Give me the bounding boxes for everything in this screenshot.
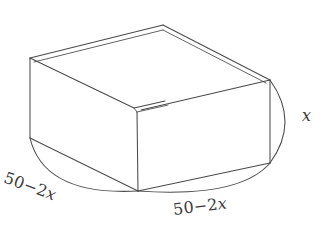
arc-right-height xyxy=(270,80,285,163)
interior-edge-right xyxy=(141,80,270,110)
interior-edge-left xyxy=(30,58,134,108)
rim-top-back-right-outer xyxy=(163,25,270,80)
rim-front-corner-cap xyxy=(134,108,137,112)
bottom-edge-right xyxy=(138,163,270,191)
rim-top-back-left-inner xyxy=(34,30,163,62)
label-right-number: 50 xyxy=(172,197,195,218)
geometry-figure: 50−2x 50−2x x xyxy=(0,0,332,235)
vertical-edge-front xyxy=(137,112,138,191)
label-height: x xyxy=(302,106,311,125)
rim-top-back-left-outer xyxy=(30,25,163,58)
label-height-variable: x xyxy=(302,106,311,125)
rim-top-back-right-inner xyxy=(163,30,266,83)
